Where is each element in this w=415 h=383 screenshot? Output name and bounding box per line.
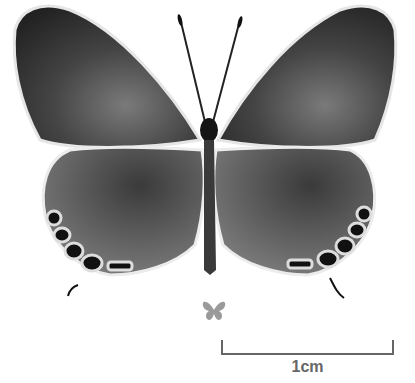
- butterfly-illustration: [0, 0, 415, 383]
- scale-bar-label: 1cm: [221, 358, 394, 376]
- forewing-left: [14, 6, 200, 147]
- butterfly-silhouette-icon: [201, 297, 227, 323]
- forewing-right: [218, 6, 396, 147]
- antennae: [180, 18, 240, 122]
- specimen-image: 1cm: [0, 0, 415, 383]
- scale-bar: [221, 340, 394, 355]
- hindwing-right: [214, 147, 375, 298]
- hindwing-left: [43, 147, 204, 296]
